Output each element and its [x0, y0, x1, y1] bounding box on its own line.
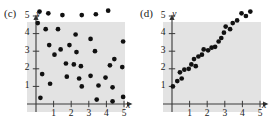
data-point [79, 64, 84, 69]
data-point [178, 70, 183, 75]
y-tick-label: 4 [158, 27, 168, 37]
data-point [79, 13, 84, 18]
x-tick-label: 1 [185, 108, 195, 118]
figure-container: (c) y x 1234512345 (d) y x 1234512345 [0, 0, 271, 134]
data-point [222, 30, 227, 35]
y-tick-label: 3 [22, 45, 32, 55]
data-point [230, 21, 235, 26]
data-point [213, 44, 218, 49]
data-point [106, 8, 111, 13]
data-point [43, 27, 48, 32]
data-point [71, 62, 76, 67]
scatter-panel-c: (c) y x 1234512345 [0, 0, 135, 134]
data-point [186, 66, 191, 71]
x-tick-label: 2 [66, 108, 76, 118]
x-tick-label: 1 [49, 108, 59, 118]
data-point [58, 47, 63, 52]
y-axis-label-d: y [172, 8, 176, 19]
x-tick-label: 3 [220, 108, 230, 118]
data-point [179, 76, 184, 81]
data-point [35, 21, 40, 26]
data-point [93, 49, 98, 54]
y-tick-label: 5 [158, 10, 168, 20]
y-tick-label: 1 [22, 80, 32, 90]
data-point [112, 57, 117, 62]
data-point [103, 75, 108, 80]
data-point [74, 50, 79, 55]
data-point [121, 95, 126, 100]
x-tick-label: 2 [202, 108, 212, 118]
data-point [192, 57, 197, 62]
data-point [73, 32, 78, 37]
data-point [94, 97, 99, 102]
data-point [93, 12, 98, 17]
data-point [40, 72, 45, 77]
y-tick-label: 3 [158, 45, 168, 55]
x-tick-label: 4 [101, 108, 111, 118]
data-point [219, 36, 224, 41]
x-tick-label: 5 [119, 108, 129, 118]
scatter-panel-d: (d) y x 1234512345 [136, 0, 271, 134]
y-tick-label: 1 [158, 80, 168, 90]
data-point [64, 61, 69, 66]
data-point [56, 27, 61, 32]
data-point [64, 74, 69, 79]
data-point [200, 52, 205, 57]
y-tick-label: 4 [22, 27, 32, 37]
data-point [67, 43, 72, 48]
data-point [120, 65, 125, 70]
data-point [47, 43, 52, 48]
x-tick-label: 3 [84, 108, 94, 118]
data-point [228, 27, 233, 32]
data-point [77, 76, 82, 81]
data-point [108, 63, 113, 68]
data-point [79, 84, 84, 89]
data-point [189, 62, 194, 67]
data-point [46, 11, 51, 16]
data-point [235, 18, 240, 23]
x-tick-label: 4 [237, 108, 247, 118]
y-axis-label-c: y [36, 8, 40, 19]
data-point [175, 79, 180, 84]
x-tick-label: 5 [255, 108, 265, 118]
data-point [193, 64, 198, 69]
data-point [48, 81, 53, 86]
y-tick-label: 5 [22, 10, 32, 20]
data-point [248, 9, 253, 14]
data-point [182, 67, 187, 72]
data-point [96, 83, 101, 88]
data-point [60, 13, 65, 18]
data-point [88, 73, 93, 78]
data-point [110, 99, 115, 104]
data-point [110, 85, 115, 90]
data-point [239, 11, 244, 16]
data-point [171, 84, 176, 89]
data-point [121, 39, 126, 44]
y-tick-label: 2 [158, 62, 168, 72]
data-point [88, 37, 93, 42]
data-point [38, 95, 43, 100]
data-point [244, 14, 249, 19]
data-point [201, 47, 206, 52]
y-tick-label: 2 [22, 62, 32, 72]
data-point [223, 24, 228, 29]
data-point [52, 52, 57, 57]
